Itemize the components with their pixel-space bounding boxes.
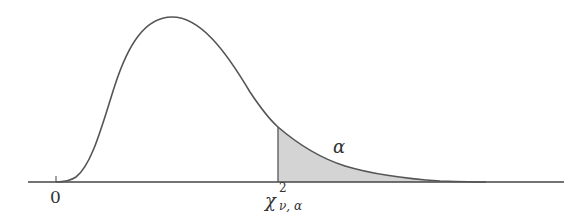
critical-value-superscript: 2 (279, 181, 287, 195)
origin-label: 0 (50, 187, 61, 207)
tail-area-label: α (333, 136, 345, 157)
critical-value-symbol: χ (265, 190, 276, 211)
density-curve (56, 17, 486, 182)
critical-value-label: χ 2 ν, α (265, 190, 276, 211)
chi-square-figure (0, 0, 576, 224)
critical-value-subscript: ν, α (279, 199, 302, 213)
